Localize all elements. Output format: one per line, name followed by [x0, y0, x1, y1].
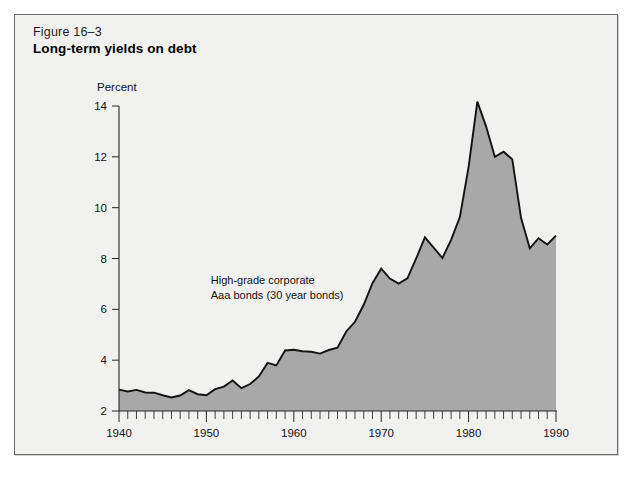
series-high-grade-corporate-aaa — [119, 102, 556, 411]
yields-area-chart: 2468101214 194019501960197019801990 Perc… — [15, 15, 619, 456]
x-axis-tick-labels: 194019501960197019801990 — [106, 427, 569, 439]
x-tick-label-1940: 1940 — [106, 427, 132, 439]
x-tick-label-1950: 1950 — [194, 427, 220, 439]
y-tick-label-8: 8 — [101, 253, 107, 265]
y-tick-label-4: 4 — [101, 354, 108, 366]
y-axis-caption: Percent — [97, 81, 137, 93]
y-tick-label-6: 6 — [101, 303, 107, 315]
x-tick-label-1980: 1980 — [456, 427, 482, 439]
annotation-line-1: High-grade corporate — [211, 274, 315, 286]
figure-panel: Figure 16–3 Long-term yields on debt 246… — [14, 14, 618, 455]
series-area-fill — [119, 102, 556, 411]
x-tick-label-1970: 1970 — [368, 427, 394, 439]
annotation-line-2: Aaa bonds (30 year bonds) — [211, 289, 344, 301]
y-tick-label-12: 12 — [94, 151, 107, 163]
chart-plot-area: 2468101214 194019501960197019801990 Perc… — [15, 15, 619, 456]
x-axis-ticks — [119, 411, 556, 422]
figure-root: Figure 16–3 Long-term yields on debt 246… — [0, 0, 633, 477]
y-axis-ticks — [112, 106, 119, 411]
y-tick-label-14: 14 — [94, 100, 107, 112]
y-tick-label-10: 10 — [94, 202, 107, 214]
x-tick-label-1990: 1990 — [543, 427, 569, 439]
series-annotation: High-grade corporate Aaa bonds (30 year … — [211, 274, 344, 301]
x-tick-label-1960: 1960 — [281, 427, 307, 439]
y-axis-tick-labels: 2468101214 — [94, 100, 107, 417]
y-tick-label-2: 2 — [101, 405, 107, 417]
